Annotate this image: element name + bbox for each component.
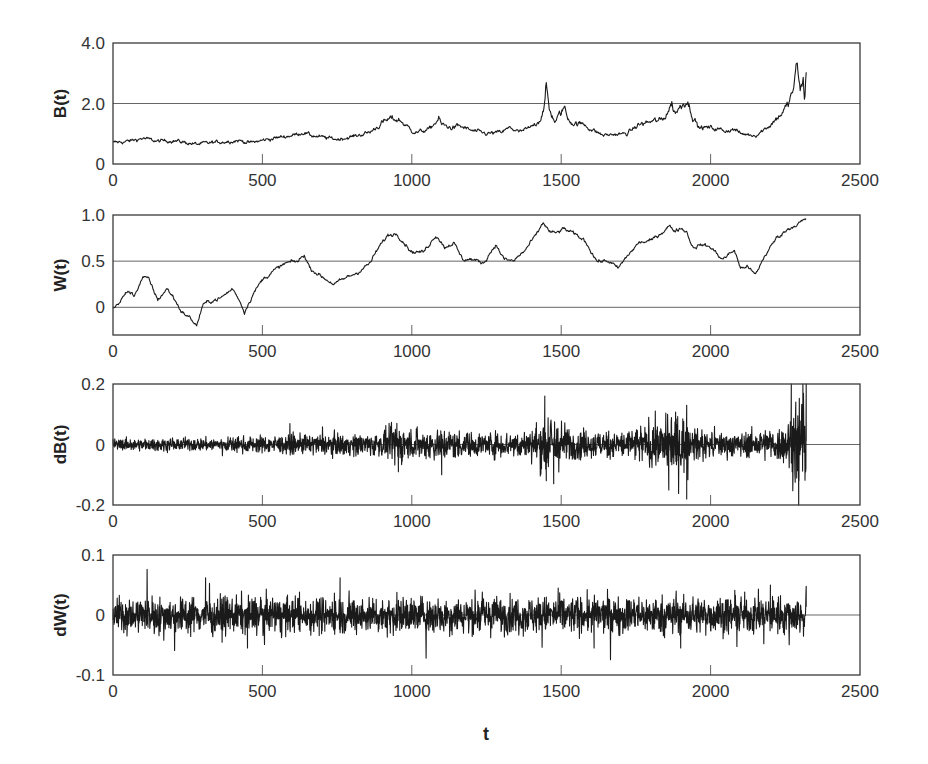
y-tick-label: 0	[96, 436, 105, 455]
panel-db: -0.200.205001000150020002500dB(t)	[51, 375, 879, 531]
x-tick-label: 0	[108, 682, 117, 701]
data-trace-dW	[113, 569, 806, 659]
x-tick-label: 2000	[692, 682, 730, 701]
panel-b: 02.04.005001000150020002500B(t)	[51, 34, 879, 190]
x-tick-label: 2000	[692, 171, 730, 190]
x-tick-label: 0	[108, 512, 117, 531]
x-tick-label: 1500	[542, 682, 580, 701]
x-tick-label: 1000	[393, 171, 431, 190]
x-tick-label: 500	[248, 682, 276, 701]
y-tick-label: 2.0	[81, 95, 105, 114]
y-tick-label: 4.0	[81, 34, 105, 53]
x-tick-label: 1500	[542, 342, 580, 361]
x-tick-label: 1500	[542, 171, 580, 190]
x-tick-label: 1000	[393, 342, 431, 361]
y-tick-label: -0.1	[76, 666, 105, 685]
y-tick-label: 0.2	[81, 375, 105, 394]
y-axis-label: dW(t)	[51, 593, 70, 636]
y-axis-label: B(t)	[51, 89, 70, 118]
x-tick-label: 500	[248, 512, 276, 531]
y-tick-label: 0	[96, 155, 105, 174]
x-tick-label: 0	[108, 171, 117, 190]
y-tick-label: -0.2	[76, 496, 105, 515]
x-tick-label: 2500	[841, 342, 879, 361]
y-tick-label: 0	[96, 298, 105, 317]
x-tick-label: 2500	[841, 171, 879, 190]
y-tick-label: 0.5	[81, 252, 105, 271]
y-tick-label: 1.0	[81, 206, 105, 225]
axes-frame	[113, 215, 860, 335]
x-tick-label: 1000	[393, 512, 431, 531]
x-tick-label: 2500	[841, 682, 879, 701]
x-tick-label: 0	[108, 342, 117, 361]
x-tick-label: 1000	[393, 682, 431, 701]
figure: 02.04.005001000150020002500B(t) 00.51.00…	[0, 0, 928, 764]
x-tick-label: 2500	[841, 512, 879, 531]
x-tick-label: 500	[248, 171, 276, 190]
y-axis-label: W(t)	[51, 258, 70, 291]
data-trace-dB	[113, 384, 806, 505]
panel-w: 00.51.005001000150020002500W(t)	[51, 206, 879, 361]
y-axis-label: dB(t)	[51, 425, 70, 465]
x-axis-label: t	[483, 724, 489, 744]
x-tick-label: 500	[248, 342, 276, 361]
data-trace-W	[113, 219, 806, 326]
panel-dw: -0.100.105001000150020002500dW(t)	[51, 546, 879, 701]
y-tick-label: 0	[96, 606, 105, 625]
x-tick-label: 1500	[542, 512, 580, 531]
x-tick-label: 2000	[692, 342, 730, 361]
x-tick-label: 2000	[692, 512, 730, 531]
chart-canvas: 02.04.005001000150020002500B(t) 00.51.00…	[0, 0, 928, 764]
y-tick-label: 0.1	[81, 546, 105, 565]
